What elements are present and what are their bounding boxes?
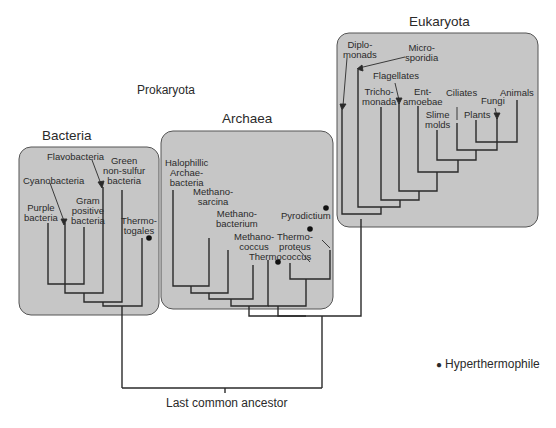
taxon-purple-bacteria: Purple bacteria bbox=[24, 203, 58, 223]
taxon-slime-molds: Slime molds bbox=[425, 110, 450, 130]
taxon-pyrodictium: Pyrodictium bbox=[281, 211, 331, 221]
taxon-cyanobacteria: Cyanobacteria bbox=[23, 176, 84, 186]
taxon-methanosarcina: Methano- sarcina bbox=[193, 187, 233, 207]
taxon-plants: Plants bbox=[464, 110, 490, 120]
taxon-halophillic-archaebacteria: Halophillic Archae- bacteria bbox=[165, 158, 208, 188]
taxon-methanococcus: Methano- coccus bbox=[234, 232, 274, 252]
taxon-green-non-sulfur-bacteria: Green non-sulfur bacteria bbox=[103, 156, 145, 186]
bacteria-title: Bacteria bbox=[42, 128, 92, 143]
taxon-entamoebae: Ent- amoebae bbox=[403, 87, 443, 107]
taxon-animals: Animals bbox=[500, 88, 534, 98]
taxon-thermotogales: Thermo- togales bbox=[121, 216, 157, 236]
taxon-thermococcus: Thermococcus bbox=[249, 252, 311, 262]
taxon-thermoproteus: Thermo- proteus bbox=[277, 232, 313, 252]
root-label: Last common ancestor bbox=[166, 396, 287, 410]
legend: ●Hyperthermophile bbox=[436, 357, 540, 371]
taxon-diplomonads: Diplo- monads bbox=[343, 40, 377, 60]
hyperthermophile-dot-thermotogales bbox=[146, 235, 152, 241]
taxon-flagellates: Flagellates bbox=[373, 71, 419, 81]
eukaryota-title: Eukaryota bbox=[409, 14, 470, 29]
taxon-methanobacterium: Methano- bacterium bbox=[216, 209, 258, 229]
taxon-trichomonada: Tricho- monada bbox=[362, 87, 396, 107]
taxon-microsporidia: Micro- sporidia bbox=[405, 43, 438, 63]
taxon-ciliates: Ciliates bbox=[446, 88, 477, 98]
taxon-flavobacteria: Flavobacteria bbox=[47, 152, 104, 162]
legend-label: Hyperthermophile bbox=[445, 357, 540, 371]
archaea-title: Archaea bbox=[222, 111, 272, 126]
legend-dot-icon: ● bbox=[436, 359, 442, 370]
taxon-gram-positive-bacteria: Gram positive bacteria bbox=[71, 196, 105, 226]
prokaryota-title: Prokaryota bbox=[137, 83, 195, 97]
